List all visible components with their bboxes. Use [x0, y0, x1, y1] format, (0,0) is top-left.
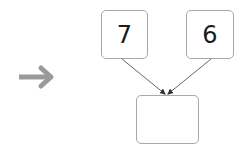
connector-left — [122, 59, 165, 94]
operand-box-2: 6 — [186, 10, 234, 59]
operand-value-1: 7 — [117, 21, 132, 49]
result-box[interactable] — [136, 95, 199, 144]
right-arrow-icon — [19, 68, 51, 86]
connector-right — [168, 59, 211, 94]
operand-value-2: 6 — [202, 21, 217, 49]
operand-box-1: 7 — [101, 10, 148, 59]
